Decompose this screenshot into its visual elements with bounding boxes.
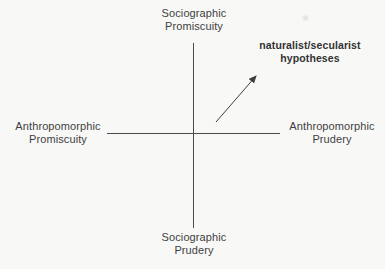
axis-label-bottom: Sociographic Prudery bbox=[162, 231, 227, 257]
axis-label-left: Anthropomorphic Promiscuity bbox=[15, 120, 100, 146]
axis-label-top: Sociographic Promiscuity bbox=[162, 7, 227, 33]
axis-label-top-line2: Promiscuity bbox=[162, 20, 227, 33]
annotation-label-line1: naturalist/secularist bbox=[259, 39, 360, 52]
quadrant-diagram: Sociographic Promiscuity Sociographic Pr… bbox=[0, 0, 385, 269]
axis-label-left-line1: Anthropomorphic bbox=[15, 120, 100, 133]
axis-label-right: Anthropomorphic Prudery bbox=[289, 120, 374, 146]
axis-label-bottom-line1: Sociographic bbox=[162, 231, 227, 244]
axis-label-right-line1: Anthropomorphic bbox=[289, 120, 374, 133]
axis-label-left-line2: Promiscuity bbox=[15, 133, 100, 146]
axis-label-bottom-line2: Prudery bbox=[162, 244, 227, 257]
axis-label-top-line1: Sociographic bbox=[162, 7, 227, 20]
annotation-label-line2: hypotheses bbox=[259, 52, 360, 65]
scan-artifact bbox=[303, 16, 308, 20]
axis-label-right-line2: Prudery bbox=[289, 133, 374, 146]
trend-arrow bbox=[216, 76, 256, 122]
annotation-label: naturalist/secularist hypotheses bbox=[259, 39, 360, 65]
